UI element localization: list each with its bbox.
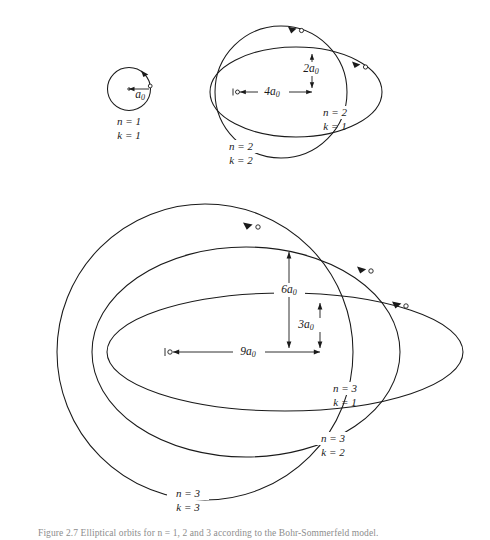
quantum-label-n2k1-k: k = 1: [323, 120, 346, 132]
dimension-label-6a0-symbol: 6a: [281, 283, 293, 295]
dimension-label-2a0-subscript: 0: [315, 66, 319, 75]
dimension-label-2a0-symbol: 2a: [303, 62, 315, 74]
dimension-label-a0-subscript: 0: [141, 92, 145, 101]
shell-group-n3: 9a0 6a0 3a0: [57, 204, 463, 513]
dimension-label-9a0-subscript: 0: [252, 349, 256, 358]
dimension-arrowhead-9a0-left: [173, 350, 179, 355]
dimension-label-4a0-subscript: 0: [276, 89, 280, 98]
quantum-label-n3k1-k: k = 1: [333, 396, 356, 408]
dimension-arrowhead-6a0-top: [287, 252, 292, 258]
quantum-label-n3k3-n: n = 3: [176, 487, 200, 499]
electron-marker: [256, 225, 260, 229]
dimension-arrowhead-2a0-top: [310, 54, 314, 60]
figure-caption: Figure 2.7 Elliptical orbits for n = 1, …: [38, 528, 379, 538]
dimension-label-9a0-symbol: 9a: [240, 345, 252, 357]
shell-group-n2: 4a0 2a0 n = 2 k = 1 n = 2 k = 2: [210, 26, 382, 166]
electron-marker: [363, 65, 367, 69]
quantum-label-n2k2-k: k = 2: [229, 154, 253, 166]
electron-marker: [404, 304, 408, 308]
direction-arrowhead: [141, 71, 148, 78]
dimension-arrowhead-9a0-right: [314, 350, 320, 355]
quantum-label-n3k1-n: n = 3: [333, 382, 357, 394]
figure-root: a0 n = 1 k = 1 4a0: [0, 0, 490, 540]
dimension-label-3a0-symbol: 3a: [297, 318, 310, 330]
quantum-label-n2k2-n: n = 2: [229, 140, 253, 152]
electron-marker: [369, 269, 373, 273]
dimension-arrowhead-6a0-bottom: [287, 342, 292, 348]
electron-marker: [148, 84, 152, 88]
dimension-arrowhead-3a0-bottom: [318, 342, 323, 348]
nucleus-focus-marker: [236, 90, 240, 94]
quantum-label-n3k3-k: k = 3: [176, 501, 200, 513]
quantum-label-n2k1-n: n = 2: [323, 106, 347, 118]
direction-arrowhead: [357, 267, 366, 274]
electron-marker: [299, 28, 303, 32]
dimension-label-3a0-subscript: 0: [310, 322, 314, 331]
dimension-arrowhead-4a0-left: [240, 90, 246, 94]
dimension-arrowhead-4a0-right: [306, 90, 312, 94]
quantum-label-n3k2-k: k = 2: [321, 446, 345, 458]
direction-arrowhead: [243, 223, 253, 230]
dimension-arrowhead-3a0-top: [318, 303, 323, 309]
direction-arrowhead: [352, 62, 360, 69]
nucleus-focus-marker: [168, 350, 172, 354]
dimension-label-a0: a0: [135, 88, 145, 102]
dimension-label-4a0-symbol: 4a: [264, 85, 276, 97]
figure-caption-strip: Figure 2.7 Elliptical orbits for n = 1, …: [0, 526, 490, 540]
shell-group-n1: a0 n = 1 k = 1: [108, 68, 153, 141]
dimension-arrowhead-a0-left: [129, 87, 135, 91]
dimension-label-6a0-subscript: 0: [293, 287, 297, 296]
dimension-arrowhead-2a0-bottom: [310, 82, 314, 88]
quantum-label-n1-n: n = 1: [117, 115, 141, 127]
quantum-label-n1-k: k = 1: [117, 129, 140, 141]
orbit-diagram: a0 n = 1 k = 1 4a0: [0, 0, 490, 540]
quantum-label-n3k2-n: n = 3: [321, 432, 345, 444]
